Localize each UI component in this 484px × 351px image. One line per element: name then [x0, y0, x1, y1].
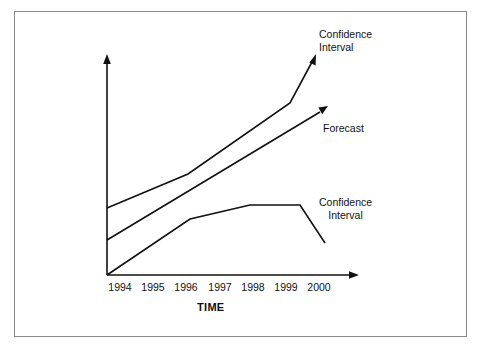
x-tick-label-1994: 1994	[104, 281, 136, 293]
x-tick-label-1997: 1997	[204, 281, 236, 293]
x-tick-label-1995: 1995	[137, 281, 169, 293]
annotation-upper-ci-line1: Confidence	[319, 28, 372, 40]
annotation-forecast: Forecast	[323, 122, 364, 135]
annotation-lower-confidence-interval: Confidence Interval	[319, 196, 372, 222]
annotation-upper-confidence-interval: Confidence Interval	[319, 28, 372, 54]
x-tick-label-1999: 1999	[270, 281, 302, 293]
lower-confidence-interval-line	[107, 205, 325, 275]
forecast-line	[107, 112, 320, 240]
y-axis-arrow-icon	[103, 54, 111, 64]
annotation-forecast-line1: Forecast	[323, 122, 364, 134]
x-tick-label-1996: 1996	[170, 281, 202, 293]
x-axis-title: TIME	[197, 301, 224, 313]
x-axis-arrow-icon	[349, 271, 359, 279]
chart-plot-area	[0, 0, 484, 351]
annotation-upper-ci-line2: Interval	[319, 41, 372, 54]
figure-root: 1994 1995 1996 1997 1998 1999 2000 TIME …	[0, 0, 484, 351]
annotation-lower-ci-line2: Interval	[319, 209, 372, 222]
annotation-lower-ci-line1: Confidence	[319, 196, 372, 208]
x-tick-label-1998: 1998	[237, 281, 269, 293]
x-tick-label-2000: 2000	[303, 281, 335, 293]
